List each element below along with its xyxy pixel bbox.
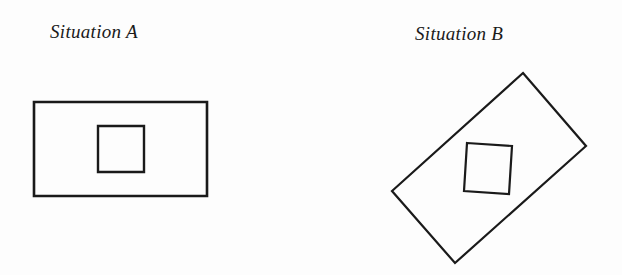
situation-b-inner-square bbox=[464, 143, 512, 194]
situation-b-figure bbox=[392, 73, 586, 263]
situation-a-outer-rectangle bbox=[34, 102, 207, 196]
diagram-canvas bbox=[0, 0, 622, 275]
situation-a-figure bbox=[34, 102, 207, 196]
situation-b-outer-rectangle bbox=[392, 73, 586, 263]
situation-a-inner-square bbox=[98, 126, 144, 172]
